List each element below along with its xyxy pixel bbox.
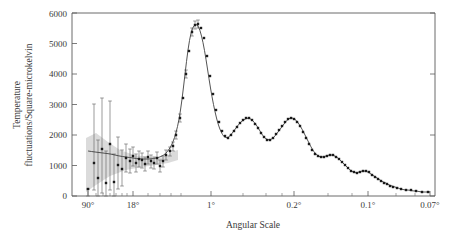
data-point — [109, 143, 111, 145]
data-point — [203, 37, 205, 39]
data-point — [153, 162, 155, 164]
data-point — [392, 186, 394, 188]
data-point — [135, 162, 137, 164]
data-point — [260, 132, 262, 134]
data-point — [215, 109, 217, 111]
data-point — [323, 156, 325, 158]
data-point — [165, 154, 167, 156]
y-tick-label-5000: 5000 — [49, 39, 68, 49]
data-point — [269, 139, 271, 141]
x-tick-labels: 90° 18° 1° 0.2° 0.1° 0.07° — [82, 200, 440, 210]
data-point — [365, 170, 367, 172]
data-point — [141, 159, 143, 161]
data-point — [353, 171, 355, 173]
cosmic-variance-band — [86, 133, 178, 192]
data-point — [188, 50, 190, 52]
data-point — [290, 117, 292, 119]
data-point — [278, 129, 280, 131]
data-point — [212, 93, 214, 95]
data-point — [87, 188, 89, 190]
y-axis-title-line2: fluctuations/Square-microkelvin — [24, 43, 34, 166]
data-point — [380, 180, 382, 182]
data-point — [317, 155, 319, 157]
x-axis-title: Angular Scale — [226, 220, 280, 230]
data-point — [159, 165, 161, 167]
y-tick-label-2000: 2000 — [49, 130, 68, 140]
data-point — [172, 145, 174, 147]
data-point — [338, 158, 340, 160]
data-point — [281, 125, 283, 127]
data-point — [138, 158, 140, 160]
data-point — [368, 171, 370, 173]
data-point — [257, 127, 259, 129]
data-point — [182, 97, 184, 99]
data-point — [209, 75, 211, 77]
data-point — [185, 73, 187, 75]
data-point — [335, 156, 337, 158]
data-point — [400, 188, 402, 190]
data-point — [305, 137, 307, 139]
data-point — [344, 164, 346, 166]
data-point — [359, 171, 361, 173]
data-point — [421, 191, 423, 193]
data-point — [377, 178, 379, 180]
data-point — [236, 126, 238, 128]
data-point — [308, 143, 310, 145]
data-point — [132, 155, 134, 157]
data-point — [230, 134, 232, 136]
x-tick-label-0-07deg: 0.07° — [420, 200, 440, 210]
data-point — [350, 170, 352, 172]
data-point — [396, 187, 398, 189]
data-point — [311, 149, 313, 151]
data-point — [415, 190, 417, 192]
data-point — [169, 150, 171, 152]
data-point — [206, 55, 208, 57]
data-point — [129, 160, 131, 162]
data-point — [389, 185, 391, 187]
data-point — [179, 117, 181, 119]
y-axis-title-line1: Temperature — [12, 81, 22, 129]
data-point — [93, 162, 95, 164]
y-tick-labels: 0 1000 2000 3000 4000 5000 6000 — [49, 9, 68, 202]
y-tick-label-1000: 1000 — [49, 161, 68, 171]
data-point — [144, 163, 146, 165]
data-point — [272, 137, 274, 139]
y-tick-label-3000: 3000 — [49, 100, 68, 110]
y-tick-label-6000: 6000 — [49, 9, 68, 19]
data-point — [113, 181, 115, 183]
data-point — [326, 155, 328, 157]
data-point — [299, 125, 301, 127]
data-point — [227, 137, 229, 139]
data-point — [101, 148, 103, 150]
data-point — [287, 118, 289, 120]
x-tick-label-18deg: 18° — [127, 200, 140, 210]
data-point — [245, 117, 247, 119]
data-point — [254, 123, 256, 125]
data-point — [427, 191, 429, 193]
data-point — [251, 119, 253, 121]
data-point — [405, 189, 407, 191]
data-point — [194, 24, 196, 26]
data-point — [156, 157, 158, 159]
data-point — [320, 156, 322, 158]
data-point — [105, 182, 107, 184]
y-tick-label-4000: 4000 — [49, 69, 68, 79]
data-point — [371, 174, 373, 176]
data-point — [362, 170, 364, 172]
data-point — [191, 31, 193, 33]
data-point — [197, 23, 199, 25]
cmb-power-spectrum-figure: 0 1000 2000 3000 4000 5000 6000 — [0, 0, 463, 241]
data-point — [275, 133, 277, 135]
data-point — [233, 130, 235, 132]
data-point — [162, 160, 164, 162]
data-point — [332, 154, 334, 156]
data-point — [329, 154, 331, 156]
data-point — [221, 130, 223, 132]
x-tick-label-1deg: 1° — [207, 200, 216, 210]
data-point — [296, 121, 298, 123]
data-point — [293, 118, 295, 120]
data-point — [356, 172, 358, 174]
data-point — [341, 161, 343, 163]
data-point — [284, 121, 286, 123]
data-point — [248, 117, 250, 119]
